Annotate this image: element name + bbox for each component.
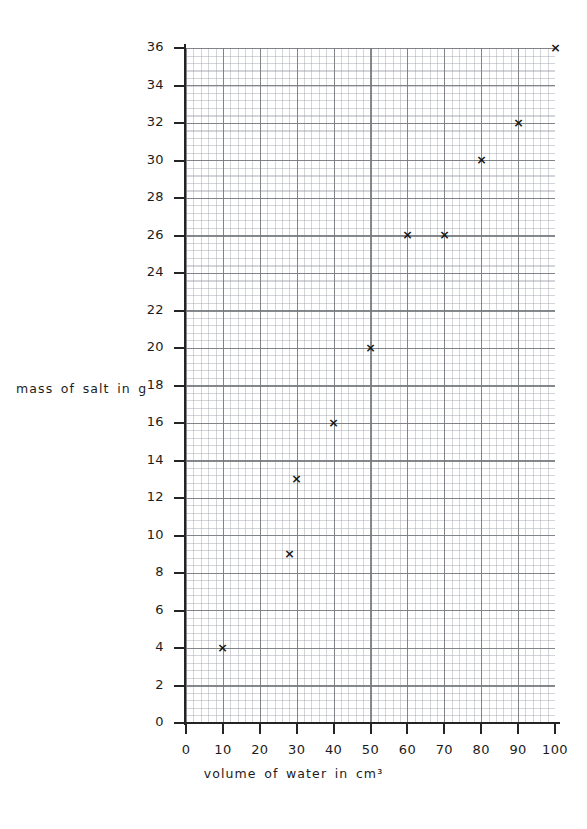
x-tick-mark	[333, 723, 335, 734]
y-tick-mark	[174, 497, 185, 499]
y-tick-mark	[174, 47, 185, 49]
y-tick-label: 0	[118, 714, 164, 729]
y-tick-mark	[174, 610, 185, 612]
x-tick-mark	[370, 723, 372, 734]
y-tick-label: 8	[118, 564, 164, 579]
x-tick-mark	[480, 723, 482, 734]
y-tick-label: 10	[118, 527, 164, 542]
y-tick-mark	[174, 347, 185, 349]
y-tick-mark	[174, 685, 185, 687]
y-tick-label: 4	[118, 639, 164, 654]
y-tick-label: 16	[118, 414, 164, 429]
y-tick-mark	[174, 647, 185, 649]
x-tick-mark	[406, 723, 408, 734]
x-tick-mark	[296, 723, 298, 734]
y-tick-mark	[174, 197, 185, 199]
y-tick-label: 34	[118, 77, 164, 92]
x-tick-label: 100	[530, 742, 580, 757]
x-tick-mark	[443, 723, 445, 734]
y-tick-label: 22	[118, 302, 164, 317]
y-tick-mark	[174, 85, 185, 87]
y-tick-mark	[174, 122, 185, 124]
y-tick-label: 12	[118, 489, 164, 504]
y-tick-mark	[174, 385, 185, 387]
y-tick-label: 20	[118, 339, 164, 354]
x-tick-mark	[259, 723, 261, 734]
y-tick-label: 14	[118, 452, 164, 467]
y-tick-mark	[174, 460, 185, 462]
y-tick-label: 26	[118, 227, 164, 242]
y-tick-label: 30	[118, 152, 164, 167]
x-tick-mark	[517, 723, 519, 734]
y-tick-label: 6	[118, 602, 164, 617]
y-tick-mark	[174, 535, 185, 537]
y-tick-label: 28	[118, 189, 164, 204]
y-tick-label: 2	[118, 677, 164, 692]
y-tick-mark	[174, 160, 185, 162]
x-tick-mark	[222, 723, 224, 734]
y-tick-mark	[174, 572, 185, 574]
y-tick-mark	[174, 722, 185, 724]
y-tick-label: 32	[118, 114, 164, 129]
y-tick-label: 24	[118, 264, 164, 279]
x-tick-mark	[554, 723, 556, 734]
scatter-chart-figure: 024681012141618202224262830323436 010203…	[0, 0, 587, 829]
y-tick-mark	[174, 422, 185, 424]
x-tick-mark	[185, 723, 187, 734]
x-axis-title: volume of water in cm³	[0, 766, 587, 781]
y-tick-mark	[174, 235, 185, 237]
y-axis-title: mass of salt in g	[16, 381, 166, 396]
y-tick-mark	[174, 310, 185, 312]
y-tick-mark	[174, 272, 185, 274]
plot-area-grid	[186, 48, 555, 723]
y-tick-label: 36	[118, 39, 164, 54]
